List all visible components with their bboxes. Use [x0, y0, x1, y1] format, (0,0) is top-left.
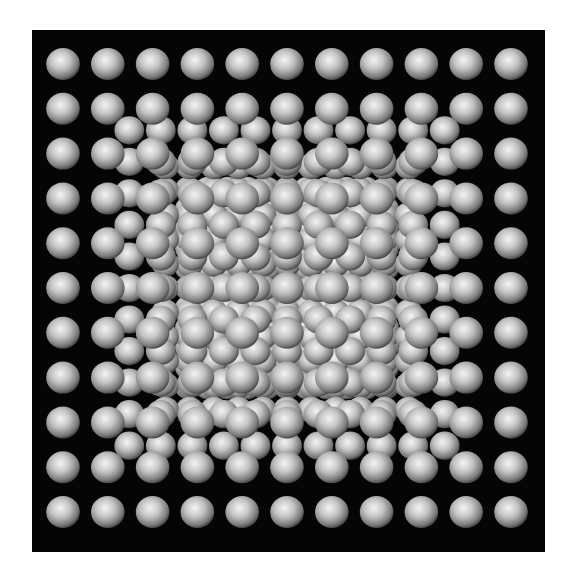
sphere	[449, 496, 483, 528]
sphere	[449, 93, 483, 125]
sphere	[405, 93, 439, 125]
sphere	[360, 362, 394, 394]
sphere	[405, 451, 439, 483]
sphere	[91, 227, 125, 259]
sphere	[449, 362, 483, 394]
sphere	[270, 272, 304, 304]
sphere	[270, 406, 304, 438]
sphere	[315, 317, 349, 349]
sphere	[46, 272, 80, 304]
sphere	[494, 182, 528, 214]
sphere	[315, 227, 349, 259]
lattice-frame	[32, 30, 545, 552]
sphere	[136, 451, 170, 483]
sphere	[225, 227, 259, 259]
sphere	[181, 93, 215, 125]
sphere	[405, 138, 439, 170]
sphere	[405, 227, 439, 259]
sphere	[360, 138, 394, 170]
sphere	[270, 317, 304, 349]
sphere	[315, 93, 349, 125]
sphere	[270, 451, 304, 483]
sphere	[225, 496, 259, 528]
sphere	[181, 138, 215, 170]
sphere	[270, 362, 304, 394]
sphere	[225, 182, 259, 214]
sphere	[46, 48, 80, 80]
sphere	[270, 93, 304, 125]
sphere	[91, 496, 125, 528]
sphere	[494, 272, 528, 304]
sphere	[225, 451, 259, 483]
sphere	[181, 227, 215, 259]
sphere	[136, 48, 170, 80]
sphere	[315, 138, 349, 170]
sphere	[225, 138, 259, 170]
sphere	[270, 496, 304, 528]
sphere	[405, 496, 439, 528]
sphere	[494, 227, 528, 259]
sphere	[91, 48, 125, 80]
sphere	[225, 317, 259, 349]
sphere	[46, 93, 80, 125]
sphere	[181, 406, 215, 438]
sphere	[360, 227, 394, 259]
sphere	[494, 496, 528, 528]
sphere	[315, 451, 349, 483]
sphere	[225, 406, 259, 438]
sphere	[225, 93, 259, 125]
sphere	[46, 138, 80, 170]
sphere	[136, 496, 170, 528]
sphere	[315, 362, 349, 394]
sphere	[405, 362, 439, 394]
sphere	[46, 362, 80, 394]
sphere	[181, 317, 215, 349]
sphere	[91, 451, 125, 483]
sphere	[449, 138, 483, 170]
sphere	[360, 317, 394, 349]
sphere	[46, 451, 80, 483]
sphere	[360, 451, 394, 483]
sphere	[405, 272, 439, 304]
sphere	[136, 317, 170, 349]
sphere	[360, 182, 394, 214]
sphere	[270, 48, 304, 80]
sphere	[449, 451, 483, 483]
sphere	[449, 272, 483, 304]
sphere	[315, 182, 349, 214]
sphere	[181, 272, 215, 304]
sphere	[315, 272, 349, 304]
sphere	[449, 182, 483, 214]
sphere	[315, 406, 349, 438]
sphere	[181, 451, 215, 483]
sphere	[181, 182, 215, 214]
sphere	[136, 227, 170, 259]
sphere	[91, 182, 125, 214]
sphere	[494, 138, 528, 170]
sphere	[494, 451, 528, 483]
sphere	[449, 48, 483, 80]
sphere	[136, 93, 170, 125]
sphere	[360, 93, 394, 125]
sphere	[405, 48, 439, 80]
sphere	[225, 48, 259, 80]
sphere	[91, 93, 125, 125]
sphere	[449, 406, 483, 438]
sphere	[181, 48, 215, 80]
sphere	[225, 272, 259, 304]
sphere	[315, 48, 349, 80]
sphere	[405, 182, 439, 214]
sphere	[136, 362, 170, 394]
sphere	[494, 362, 528, 394]
sphere	[405, 406, 439, 438]
sphere	[91, 362, 125, 394]
sphere	[91, 317, 125, 349]
sphere	[46, 496, 80, 528]
sphere	[494, 48, 528, 80]
sphere	[270, 227, 304, 259]
sphere	[181, 362, 215, 394]
sphere	[494, 406, 528, 438]
sphere	[136, 138, 170, 170]
sphere	[315, 496, 349, 528]
sphere	[270, 182, 304, 214]
